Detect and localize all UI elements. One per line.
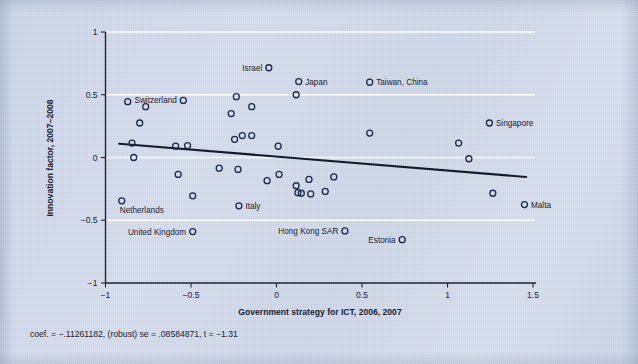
data-point [275,143,281,149]
y-tick-label: 0.5 [86,90,98,100]
data-point [486,120,492,126]
x-axis-ticks: −1−0.500.511.5 [101,283,540,300]
data-points [119,65,528,243]
y-tick-label: −0.5 [81,215,98,225]
data-point [342,228,348,234]
point-label: Italy [245,202,261,211]
x-tick-label: 1.5 [527,290,539,300]
point-label: Taiwan, China [376,78,428,87]
data-point [296,79,302,85]
data-point [235,166,241,172]
point-label: Japan [305,78,328,87]
x-tick-label: −0.5 [183,290,200,300]
data-point [521,202,527,208]
data-point [180,97,186,103]
point-label: Singapore [496,119,534,128]
plot-svg: −1−0.500.511.5 −1−0.500.51 SwitzerlandIt… [0,0,638,364]
gridlines [106,32,536,220]
x-tick-label: −1 [101,290,111,300]
y-tick-label: 1 [93,27,98,37]
data-point [306,176,312,182]
data-point [190,229,196,235]
data-point [266,65,272,71]
data-point [456,140,462,146]
point-label: Malta [531,201,551,210]
data-point [190,193,196,199]
point-label: United Kingdom [128,228,186,237]
point-label: Israel [242,64,262,73]
regression-caption: coef. = −.11261182, (robust) se = .08584… [30,329,238,339]
data-point [264,178,270,184]
x-tick-label: 0 [274,290,279,300]
point-labels: SwitzerlandItalyIsraelJapanHong Kong SAR… [120,64,552,245]
data-point [308,191,314,197]
data-point [137,120,143,126]
point-label: Switzerland [134,96,177,105]
data-point [466,156,472,162]
data-point [367,79,373,85]
data-point [232,136,238,142]
data-point [249,104,255,110]
data-point [490,190,496,196]
data-point [125,99,131,105]
data-point [228,111,234,117]
data-point [119,198,125,204]
data-point [322,188,328,194]
y-tick-label: −1 [88,278,98,288]
data-point [293,183,299,189]
x-tick-label: 0.5 [356,290,368,300]
scatter-plot-figure: −1−0.500.511.5 −1−0.500.51 SwitzerlandIt… [0,0,638,364]
point-label: Netherlands [120,206,164,215]
data-point [175,171,181,177]
data-point [239,133,245,139]
data-point [276,171,282,177]
y-axis-title: Innovation factor, 2007–2008 [45,99,55,216]
data-point [216,165,222,171]
x-axis-title: Government strategy for ICT, 2006, 2007 [238,307,402,317]
data-point [399,237,405,243]
y-tick-label: 0 [93,153,98,163]
x-tick-label: 1 [445,290,450,300]
data-point [185,143,191,149]
data-point [331,174,337,180]
data-point [236,203,242,209]
point-label: Estonia [368,236,396,245]
point-label: Hong Kong SAR [278,227,338,236]
data-point [249,133,255,139]
data-point [367,130,373,136]
y-axis-ticks: −1−0.500.51 [81,27,106,288]
